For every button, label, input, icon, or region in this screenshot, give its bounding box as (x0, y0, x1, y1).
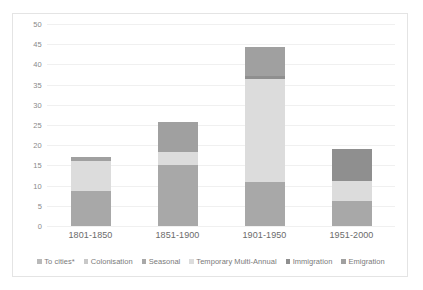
y-axis-tick-label: 5 (38, 201, 42, 210)
legend-item-label: Immigration (293, 257, 333, 266)
y-axis-tick-label: 35 (33, 80, 42, 89)
y-axis-tick-label: 45 (33, 40, 42, 49)
legend-swatch-icon (37, 259, 42, 264)
stacked-bar[interactable] (245, 47, 285, 226)
legend-swatch-icon (142, 259, 147, 264)
legend-item-seasonal[interactable]: Seasonal (142, 257, 181, 266)
y-axis-tick-label: 10 (33, 181, 42, 190)
y-axis-tick-label: 50 (33, 20, 42, 29)
legend-swatch-icon (189, 259, 194, 264)
bar-segment-temporary-multi-annual[interactable] (332, 181, 372, 201)
y-axis-tick-label: 40 (33, 60, 42, 69)
legend-swatch-icon (286, 259, 291, 264)
plot-area: 50454035302520151050 (47, 24, 395, 226)
y-axis-tick-label: 25 (33, 121, 42, 130)
legend-item-label: Emigration (348, 257, 384, 266)
chart-legend: To cities*ColonisationSeasonalTemporary … (13, 257, 409, 266)
y-axis-tick-label: 15 (33, 161, 42, 170)
bar-segment-seasonal[interactable] (71, 191, 111, 226)
legend-swatch-icon (341, 259, 346, 264)
stacked-bar[interactable] (158, 122, 198, 226)
stacked-bar[interactable] (71, 157, 111, 226)
legend-swatch-icon (84, 259, 89, 264)
x-axis-tick-label: 1851-1900 (134, 230, 221, 240)
x-axis-tick-label: 1801-1850 (47, 230, 134, 240)
bar-group-1951-2000[interactable] (308, 24, 395, 226)
bar-group-1901-1950[interactable] (221, 24, 308, 226)
bar-segment-seasonal[interactable] (158, 165, 198, 226)
bar-segment-temporary-multi-annual[interactable] (71, 161, 111, 190)
x-axis-tick-label: 1951-2000 (308, 230, 395, 240)
bar-segment-emigration[interactable] (245, 47, 285, 76)
legend-item-immigration[interactable]: Immigration (286, 257, 333, 266)
bar-segment-temporary-multi-annual[interactable] (245, 79, 285, 182)
bar-series-group (47, 24, 395, 226)
bar-group-1801-1850[interactable] (47, 24, 134, 226)
bar-group-1851-1900[interactable] (134, 24, 221, 226)
bar-segment-seasonal[interactable] (245, 182, 285, 226)
legend-item-colonisation[interactable]: Colonisation (84, 257, 133, 266)
x-axis-labels: 1801-18501851-19001901-19501951-2000 (47, 230, 395, 240)
legend-item-to-cities[interactable]: To cities* (37, 257, 75, 266)
legend-item-label: Seasonal (149, 257, 181, 266)
bar-segment-emigration[interactable] (158, 122, 198, 151)
legend-item-label: Colonisation (91, 257, 133, 266)
x-axis-tick-label: 1901-1950 (221, 230, 308, 240)
legend-item-label: Temporary Multi-Annual (196, 257, 276, 266)
legend-item-label: To cities* (44, 257, 75, 266)
chart-container: 50454035302520151050 1801-18501851-19001… (12, 13, 408, 277)
stacked-bar[interactable] (332, 149, 372, 226)
bar-segment-immigration[interactable] (332, 149, 372, 181)
y-axis-tick-label: 30 (33, 100, 42, 109)
legend-item-emigration[interactable]: Emigration (341, 257, 384, 266)
bar-segment-temporary-multi-annual[interactable] (158, 152, 198, 166)
gridline (47, 226, 395, 227)
y-axis-tick-label: 0 (38, 222, 42, 231)
bar-segment-seasonal[interactable] (332, 201, 372, 226)
legend-item-temporary-multi-annual[interactable]: Temporary Multi-Annual (189, 257, 276, 266)
y-axis-tick-label: 20 (33, 141, 42, 150)
